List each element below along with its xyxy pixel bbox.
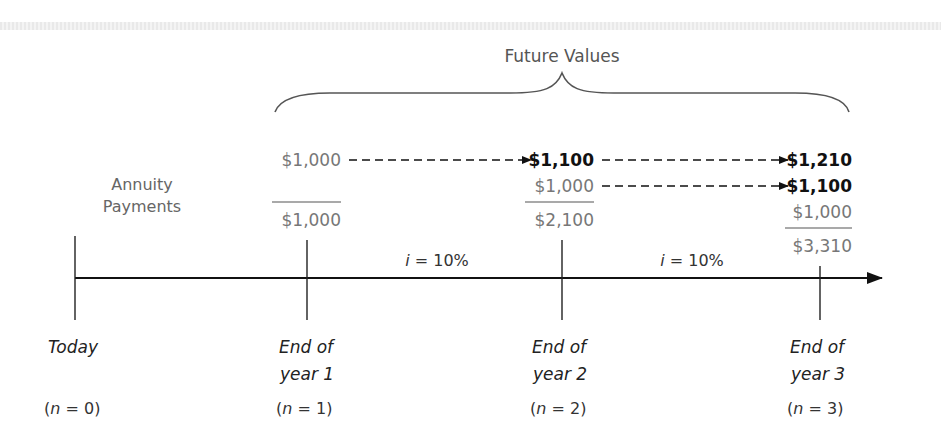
total-year1: $1,000 (282, 210, 341, 230)
label-year3-line1: End of (790, 337, 847, 357)
label-year1-line2: year 1 (279, 364, 334, 384)
row1-value-year2: $1,100 (528, 150, 594, 170)
n-label-3: (n = 3) (787, 399, 843, 418)
interest-rate-period1: i = 10% (405, 251, 469, 270)
row1-value-year3: $1,210 (786, 150, 852, 170)
label-year2-line2: year 2 (532, 364, 587, 384)
label-year3-line2: year 3 (790, 364, 845, 384)
diagram-title: Future Values (504, 46, 619, 66)
row1-payment-year1: $1,000 (282, 150, 341, 170)
row3-payment-year3: $1,000 (793, 202, 852, 222)
total-year2: $2,100 (535, 210, 594, 230)
n-label-0: (n = 0) (44, 399, 100, 418)
label-today: Today (48, 337, 99, 357)
n-label-2: (n = 2) (530, 399, 586, 418)
future-values-brace (275, 73, 849, 112)
annuity-payments-label-line2: Payments (103, 197, 181, 216)
n-label-1: (n = 1) (276, 399, 332, 418)
label-year2-line1: End of (532, 337, 589, 357)
row2-value-year3: $1,100 (786, 176, 852, 196)
annuity-payments-label-line1: Annuity (111, 175, 173, 194)
row2-payment-year2: $1,000 (535, 176, 594, 196)
interest-rate-period2: i = 10% (660, 251, 724, 270)
annuity-timeline-diagram: Future Values Annuity Payments $1,000 $1… (0, 0, 941, 443)
label-year1-line1: End of (279, 337, 336, 357)
total-year3: $3,310 (793, 236, 852, 256)
